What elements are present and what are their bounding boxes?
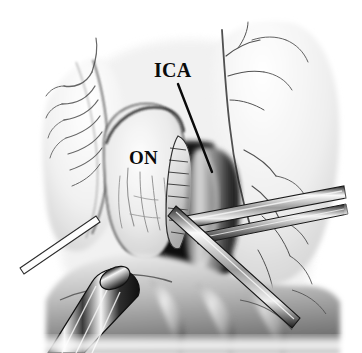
label-on: ON xyxy=(129,148,158,167)
figure-container: ICA ON xyxy=(0,0,362,353)
label-ica: ICA xyxy=(154,60,192,80)
surgical-illustration-artwork xyxy=(0,0,362,353)
